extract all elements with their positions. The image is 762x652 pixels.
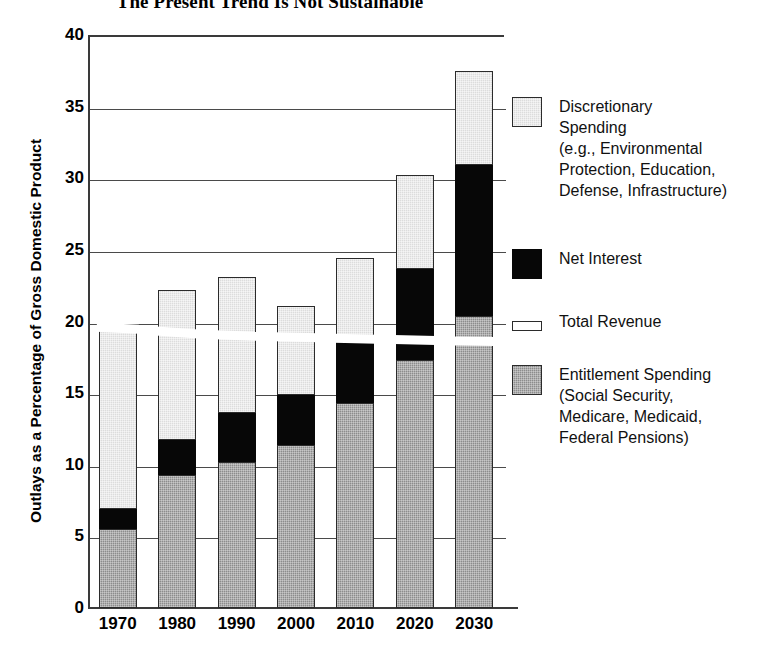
y-axis-tick-label: 25 <box>40 240 84 260</box>
bar-segment-discretionary[interactable] <box>336 258 374 343</box>
bar-series-container <box>88 35 504 608</box>
y-axis-tick-label: 30 <box>40 168 84 188</box>
bar-segment-interest[interactable] <box>336 343 374 403</box>
y-axis-tick-label: 5 <box>40 526 84 546</box>
bar-group-1980[interactable] <box>158 35 196 608</box>
bar-segment-entitlement[interactable] <box>218 462 256 608</box>
bar-segment-entitlement[interactable] <box>396 360 434 608</box>
x-axis-tick-label-2030: 2030 <box>455 614 493 634</box>
y-axis-tick-label: 10 <box>40 455 84 475</box>
bar-segment-discretionary[interactable] <box>455 71 493 166</box>
bar-segment-discretionary[interactable] <box>277 306 315 395</box>
bar-segment-interest[interactable] <box>158 440 196 474</box>
x-axis-tick-label-1990: 1990 <box>218 614 256 634</box>
bar-group-1990[interactable] <box>218 35 256 608</box>
y-axis-tick-label: 20 <box>40 312 84 332</box>
bar-group-2000[interactable] <box>277 35 315 608</box>
y-axis-tick-label: 35 <box>40 97 84 117</box>
legend-item-interest[interactable]: Net Interest <box>512 248 642 279</box>
bar-segment-entitlement[interactable] <box>336 403 374 608</box>
bar-segment-interest[interactable] <box>277 395 315 445</box>
bar-group-2010[interactable] <box>336 35 374 608</box>
bar-segment-entitlement[interactable] <box>158 475 196 608</box>
bar-segment-entitlement[interactable] <box>99 529 137 608</box>
bar-segment-discretionary[interactable] <box>218 277 256 413</box>
x-axis-tick-label-1980: 1980 <box>158 614 196 634</box>
y-axis-tick-label: 40 <box>40 25 84 45</box>
x-axis-tick-labels: 1970198019902000201020202030 <box>88 614 504 644</box>
bar-segment-interest[interactable] <box>218 413 256 462</box>
bar-group-2020[interactable] <box>396 35 434 608</box>
legend-swatch-entitlement-icon <box>512 365 542 395</box>
legend-item-discretionary[interactable]: Discretionary Spending (e.g., Environmen… <box>512 96 727 201</box>
bar-segment-discretionary[interactable] <box>396 175 434 268</box>
y-axis-tick-label: 0 <box>40 598 84 618</box>
x-axis-tick-label-1970: 1970 <box>99 614 137 634</box>
bar-segment-interest[interactable] <box>455 165 493 315</box>
bar-segment-interest[interactable] <box>99 509 137 529</box>
legend-item-entitlement[interactable]: Entitlement Spending (Social Security, M… <box>512 364 711 448</box>
legend-label: Total Revenue <box>559 311 661 332</box>
bar-segment-interest[interactable] <box>396 269 434 361</box>
bar-group-1970[interactable] <box>99 35 137 608</box>
legend-swatch-revenue-icon <box>512 321 542 331</box>
bar-group-2030[interactable] <box>455 35 493 608</box>
bar-segment-discretionary[interactable] <box>158 290 196 440</box>
legend-label: Discretionary Spending (e.g., Environmen… <box>559 96 727 201</box>
legend-swatch-interest-icon <box>512 249 542 279</box>
x-axis-tick-label-2000: 2000 <box>277 614 315 634</box>
bar-segment-discretionary[interactable] <box>99 326 137 509</box>
x-axis-tick-label-2010: 2010 <box>337 614 375 634</box>
bar-segment-entitlement[interactable] <box>277 445 315 608</box>
legend-swatch-discretionary-icon <box>512 97 542 127</box>
bar-segment-entitlement[interactable] <box>455 316 493 608</box>
y-axis-tick-labels: 0510152025303540 <box>30 0 84 652</box>
legend-item-revenue[interactable]: Total Revenue <box>512 311 661 332</box>
y-axis-tick-label: 15 <box>40 383 84 403</box>
chart-figure: The Present Trend Is Not Sustainable Out… <box>0 0 762 652</box>
legend-label: Entitlement Spending (Social Security, M… <box>559 364 711 448</box>
legend-label: Net Interest <box>559 248 642 269</box>
x-axis-tick-label-2020: 2020 <box>396 614 434 634</box>
